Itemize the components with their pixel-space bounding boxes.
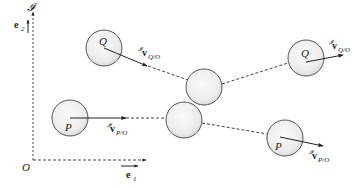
q-after-label: Q: [301, 47, 309, 59]
q-path-in: [148, 66, 188, 80]
q-path-out: [222, 63, 288, 84]
q-before-label: Q: [99, 35, 107, 47]
p-after-velocity-sub: P/O: [317, 156, 329, 164]
p-before-velocity-symbol: v: [110, 123, 115, 134]
origin-label: O: [22, 161, 30, 173]
collision-diagram: 𝓘 O e 2 e 1 Q 𝓘 v Q/O P 𝓘 v: [0, 0, 363, 188]
collision-body-upper: [186, 69, 222, 105]
body-p-before: P 𝓘 v P/O: [52, 100, 127, 137]
e1-subscript: 1: [133, 175, 137, 183]
collision-body-lower: [166, 102, 202, 138]
e2-label: e: [14, 19, 19, 30]
inertial-frame: 𝓘 O e 2 e 1: [14, 1, 146, 183]
body-q-before: Q 𝓘 v Q/O: [86, 30, 160, 66]
p-after-velocity-symbol: v: [312, 150, 317, 161]
e1-label: e: [126, 169, 131, 180]
frame-label: 𝓘: [27, 1, 38, 13]
body-q-after: Q 𝓘 v Q/O: [288, 39, 350, 76]
body-p-after: P 𝓘 v P/O: [267, 120, 329, 164]
q-after-velocity-symbol: v: [332, 40, 337, 51]
p-path-out: [202, 123, 267, 134]
p-after-label: P: [274, 140, 282, 152]
p-before-velocity-sub: P/O: [115, 129, 127, 137]
p-before-label: P: [64, 121, 72, 133]
q-before-velocity-symbol: v: [142, 47, 147, 58]
q-after-velocity-sub: Q/O: [338, 46, 350, 54]
e2-subscript: 2: [21, 25, 25, 33]
q-before-velocity-sub: Q/O: [148, 53, 160, 61]
